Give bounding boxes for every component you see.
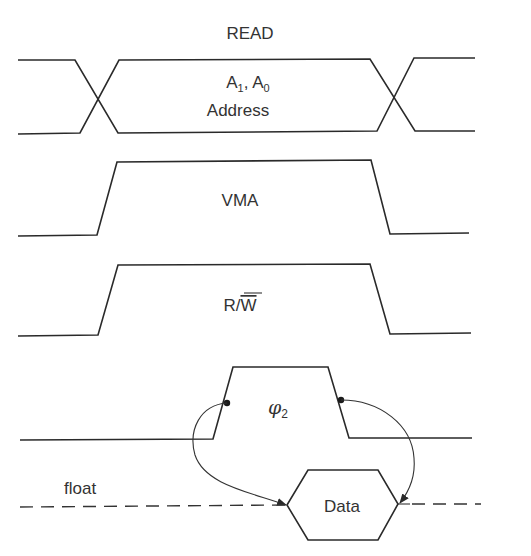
timing-diagram: READ A1, A0 Address VMA R/W φ2 float Dat… [0, 0, 531, 556]
vma-signal: VMA [18, 160, 469, 236]
float-label: float [64, 479, 96, 498]
address-bus-waveform-bottom [18, 59, 475, 134]
diagram-title: READ [226, 24, 273, 43]
rw-signal: R/W [18, 264, 471, 336]
phi2-label: φ2 [268, 396, 288, 421]
vma-label: VMA [222, 191, 260, 210]
w-overbar-text: W [240, 296, 256, 315]
address-signal: A1, A0 Address [18, 58, 475, 134]
address-label: A1, A0 [226, 73, 269, 94]
address-label-line2: Address [207, 101, 269, 120]
rw-label: R/W [223, 296, 256, 315]
data-float-line-left [20, 505, 286, 507]
arrow-phi2-fall-to-data [341, 400, 414, 503]
arrow-phi2-rise-to-data [193, 403, 286, 505]
data-label: Data [324, 497, 360, 516]
